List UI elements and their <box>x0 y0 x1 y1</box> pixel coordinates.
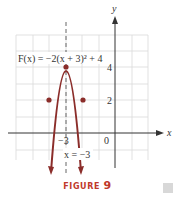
function-label: F(x) = −2(x + 3)² + 4 <box>18 53 102 65</box>
y-axis-arrow-icon <box>112 16 118 24</box>
vertex-point <box>63 64 68 69</box>
y-tick-4: 4 <box>107 62 112 73</box>
x-axis-label: x <box>166 127 172 138</box>
y-axis-label: y <box>111 3 117 14</box>
end-marker <box>163 183 173 193</box>
caption-number: 9 <box>103 179 111 192</box>
parabola-graph: x y F(x) = −2(x + 3)² + 4 4 2 −3 0 x = −… <box>0 0 175 178</box>
x-axis-arrow-icon <box>156 130 164 136</box>
point-right <box>80 97 85 102</box>
caption-word: FIGURE <box>63 182 100 191</box>
x-tick-0: 0 <box>104 135 109 146</box>
point-left <box>46 97 51 102</box>
x-tick-minus3: −3 <box>58 135 69 146</box>
figure-caption: FIGURE 9 <box>0 179 175 192</box>
right-arrow-icon <box>78 166 84 175</box>
symmetry-label: x = −3 <box>64 149 90 160</box>
y-tick-2: 2 <box>107 95 112 106</box>
left-arrow-icon <box>48 166 54 175</box>
